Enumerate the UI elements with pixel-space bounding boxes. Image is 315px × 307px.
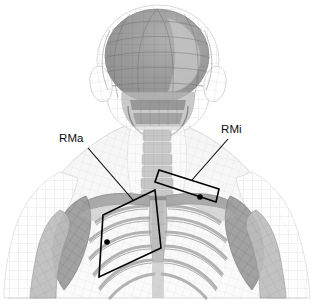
label-rma: RMa — [59, 133, 84, 145]
anatomy-illustration — [0, 0, 315, 307]
anatomy-figure: RMa RMi — [0, 0, 315, 307]
label-rmi: RMi — [221, 124, 242, 136]
rma-marker-dot — [104, 239, 110, 245]
rmi-marker-dot — [197, 194, 203, 200]
